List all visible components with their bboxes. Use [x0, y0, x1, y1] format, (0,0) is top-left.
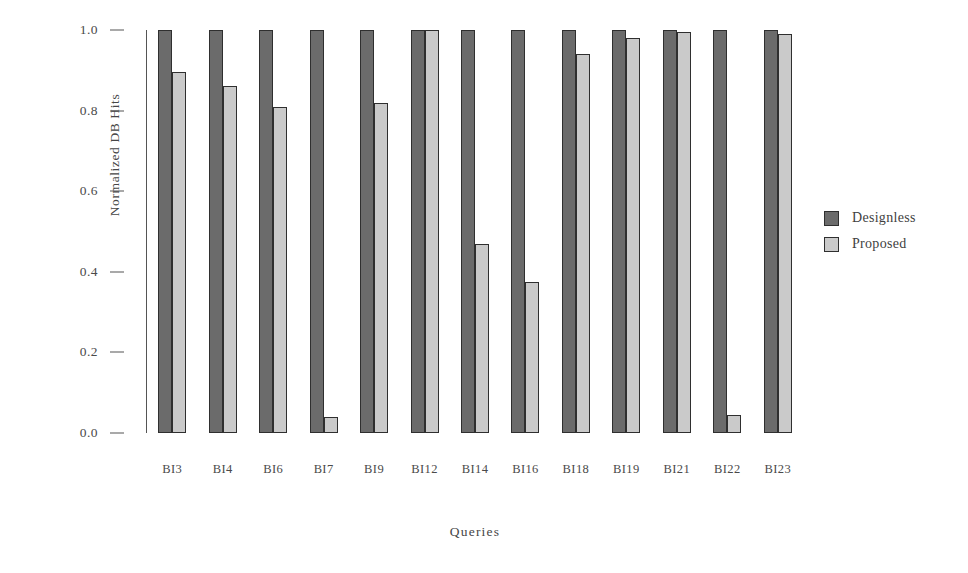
x-axis-tick-label-bi16: BI16 [512, 462, 539, 477]
bar-proposed-bi4[interactable] [223, 86, 237, 433]
x-axis-tick-label-bi3: BI3 [162, 462, 182, 477]
bar-group [259, 30, 287, 433]
y-axis-tick-mark [110, 433, 124, 434]
y-axis-tick-mark [110, 110, 124, 111]
x-axis-tick-label-bi9: BI9 [364, 462, 384, 477]
bar-group [511, 30, 539, 433]
bar-group [209, 30, 237, 433]
x-axis-tick-label-bi19: BI19 [613, 462, 640, 477]
x-axis-title: Queries [147, 524, 803, 540]
x-axis-tick-label-bi23: BI23 [764, 462, 791, 477]
bar-designless-bi3[interactable] [158, 30, 172, 433]
bar-group [461, 30, 489, 433]
bar-proposed-bi18[interactable] [576, 54, 590, 433]
chart-legend: DesignlessProposed [824, 205, 964, 257]
x-axis-tick-label-bi21: BI21 [664, 462, 691, 477]
x-axis-tick-label-bi4: BI4 [213, 462, 233, 477]
bar-group [764, 30, 792, 433]
y-axis-tick-mark [110, 30, 124, 31]
legend-swatch-icon [824, 237, 839, 252]
y-axis-tick-mark [110, 191, 124, 192]
legend-item-designless[interactable]: Designless [824, 205, 964, 231]
bar-designless-bi7[interactable] [310, 30, 324, 433]
legend-swatch-icon [824, 211, 839, 226]
x-axis-tick-label-bi18: BI18 [563, 462, 590, 477]
bar-group [612, 30, 640, 433]
bar-group [158, 30, 186, 433]
bar-proposed-bi12[interactable] [425, 30, 439, 433]
x-axis-tick-label-bi7: BI7 [314, 462, 334, 477]
legend-label: Designless [852, 210, 916, 226]
bar-proposed-bi19[interactable] [626, 38, 640, 433]
bar-proposed-bi7[interactable] [324, 417, 338, 433]
x-axis-tick-label-bi14: BI14 [462, 462, 489, 477]
bar-proposed-bi22[interactable] [727, 415, 741, 433]
legend-item-proposed[interactable]: Proposed [824, 231, 964, 257]
bar-proposed-bi9[interactable] [374, 103, 388, 433]
bar-designless-bi23[interactable] [764, 30, 778, 433]
bar-group [411, 30, 439, 433]
bar-chart-figure: Normalized DB Hits 0.00.20.40.60.81.0 BI… [0, 0, 968, 573]
bar-designless-bi14[interactable] [461, 30, 475, 433]
bar-designless-bi19[interactable] [612, 30, 626, 433]
y-axis-tick-label: 1.0 [54, 22, 98, 38]
bar-proposed-bi14[interactable] [475, 244, 489, 433]
y-axis-tick-label: 0.6 [54, 183, 98, 199]
x-axis-tick-label-bi22: BI22 [714, 462, 741, 477]
bar-proposed-bi21[interactable] [677, 32, 691, 433]
x-axis-tick-label-bi12: BI12 [411, 462, 438, 477]
x-axis-tick-labels: BI3BI4BI6BI7BI9BI12BI14BI16BI18BI19BI21B… [147, 462, 803, 486]
x-axis-tick-label-bi6: BI6 [263, 462, 283, 477]
bar-designless-bi21[interactable] [663, 30, 677, 433]
y-axis-tick-label: 0.4 [54, 264, 98, 280]
bar-designless-bi16[interactable] [511, 30, 525, 433]
y-axis-tick-mark [110, 352, 124, 353]
bar-designless-bi6[interactable] [259, 30, 273, 433]
plot-area [147, 30, 803, 433]
bar-proposed-bi6[interactable] [273, 107, 287, 433]
y-axis-tick-label: 0.0 [54, 425, 98, 441]
bar-designless-bi4[interactable] [209, 30, 223, 433]
legend-label: Proposed [852, 236, 907, 252]
y-axis-tick-mark [110, 271, 124, 272]
bar-group [360, 30, 388, 433]
bar-proposed-bi3[interactable] [172, 72, 186, 433]
bar-group [310, 30, 338, 433]
bar-group [713, 30, 741, 433]
y-axis-tick-label: 0.8 [54, 103, 98, 119]
bar-group [663, 30, 691, 433]
y-axis-tick-label: 0.2 [54, 344, 98, 360]
bar-designless-bi9[interactable] [360, 30, 374, 433]
bar-group [562, 30, 590, 433]
y-axis: 0.00.20.40.60.81.0 [0, 0, 150, 573]
bar-proposed-bi16[interactable] [525, 282, 539, 433]
bar-designless-bi12[interactable] [411, 30, 425, 433]
bar-proposed-bi23[interactable] [778, 34, 792, 433]
bar-designless-bi18[interactable] [562, 30, 576, 433]
bar-designless-bi22[interactable] [713, 30, 727, 433]
